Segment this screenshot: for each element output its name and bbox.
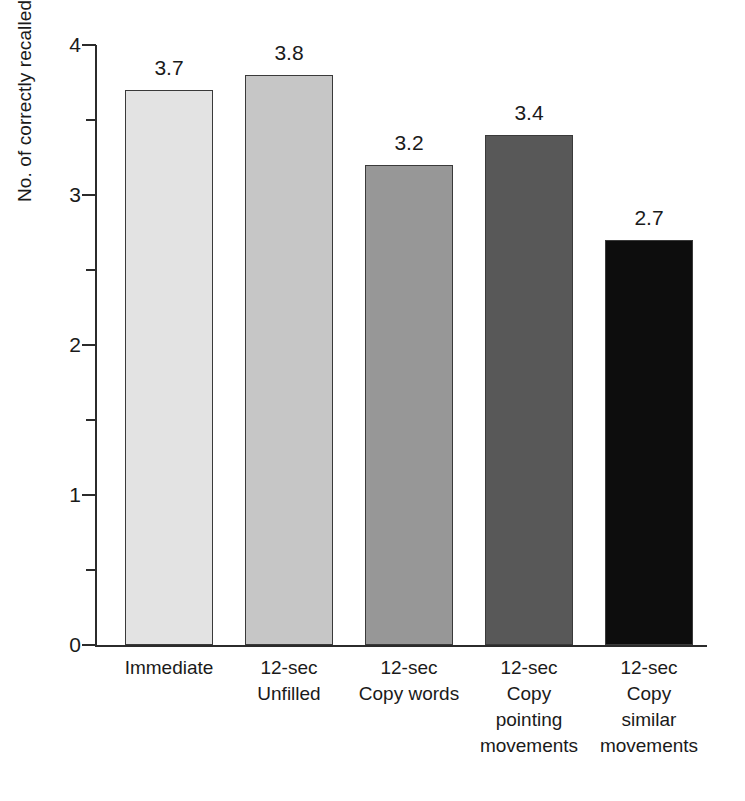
x-tick-label: 12-secCopypointingmovements — [469, 655, 589, 759]
bar-value-label: 3.8 — [245, 42, 333, 63]
plot-area: 01234 3.73.83.23.42.7 — [95, 45, 695, 645]
y-tick-major — [82, 644, 96, 646]
x-tick-label-line: movements — [589, 733, 709, 759]
x-tick-label-line: 12-sec — [349, 655, 469, 681]
bar — [365, 165, 453, 645]
x-tick-label: 12-secCopysimilarmovements — [589, 655, 709, 759]
y-tick-label: 1 — [41, 484, 81, 505]
y-tick-label: 0 — [41, 634, 81, 655]
bar-value-label: 3.7 — [125, 57, 213, 78]
y-tick-label: 4 — [41, 34, 81, 55]
x-tick-label-line: pointing — [469, 707, 589, 733]
bar-value-label: 2.7 — [605, 207, 693, 228]
x-tick-label-line: Immediate — [109, 655, 229, 681]
bar-value-label: 3.4 — [485, 102, 573, 123]
x-tick-label-line: Copy words — [349, 681, 469, 707]
x-tick-label: 12-secUnfilled — [229, 655, 349, 707]
y-tick-major — [82, 344, 96, 346]
x-axis-tick-labels: Immediate12-secUnfilled12-secCopy words1… — [95, 655, 707, 795]
x-tick-label-line: 12-sec — [589, 655, 709, 681]
y-tick-major — [82, 44, 96, 46]
bar-value-label: 3.2 — [365, 132, 453, 153]
x-tick-label: Immediate — [109, 655, 229, 681]
bar-chart-figure: No. of correctly recalled movements 0123… — [0, 0, 745, 801]
y-tick-major — [82, 494, 96, 496]
y-axis-tick-labels: 01234 — [33, 45, 81, 645]
x-tick-label-line: Copy — [469, 681, 589, 707]
bar — [245, 75, 333, 645]
x-tick-label-line: Copy — [589, 681, 709, 707]
y-tick-major — [82, 194, 96, 196]
bar-series: 3.73.83.23.42.7 — [95, 45, 695, 645]
bar — [605, 240, 693, 645]
x-tick-label-line: 12-sec — [229, 655, 349, 681]
x-tick-label: 12-secCopy words — [349, 655, 469, 707]
bar — [485, 135, 573, 645]
x-axis-line — [95, 645, 707, 647]
y-tick-label: 3 — [41, 184, 81, 205]
x-tick-label-line: 12-sec — [469, 655, 589, 681]
x-tick-label-line: movements — [469, 733, 589, 759]
x-tick-label-line: similar — [589, 707, 709, 733]
x-tick-label-line: Unfilled — [229, 681, 349, 707]
y-tick-label: 2 — [41, 334, 81, 355]
bar — [125, 90, 213, 645]
